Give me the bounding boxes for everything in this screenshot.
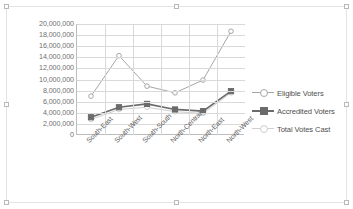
y-axis-tick-label: 16,000,000 — [12, 42, 74, 50]
legend-key-icon — [252, 106, 274, 116]
y-axis-tick-label: 0 — [12, 131, 74, 139]
legend-key-icon — [252, 88, 274, 98]
chart-plot-wrapper: 20,000,00018,000,00016,000,00014,000,000… — [7, 7, 348, 204]
data-point-marker — [229, 29, 234, 34]
y-axis-tick-label: 14,000,000 — [12, 53, 74, 61]
data-point-marker — [116, 105, 121, 110]
data-point-marker — [88, 115, 93, 120]
y-axis-tick-label: 6,000,000 — [12, 98, 74, 106]
legend-key-icon — [252, 124, 274, 134]
y-axis-tick-label: 10,000,000 — [12, 76, 74, 84]
y-axis-tick-label: 12,000,000 — [12, 64, 74, 72]
legend-item[interactable]: Eligible Voters — [252, 85, 353, 101]
legend-label: Eligible Voters — [277, 89, 324, 98]
legend-label: Accredited Voters — [277, 107, 335, 116]
legend-label: Total Votes Cast — [277, 125, 330, 134]
y-axis-tick-label: 8,000,000 — [12, 87, 74, 95]
y-axis-tick-label: 2,000,000 — [12, 120, 74, 128]
chart-container[interactable]: 20,000,00018,000,00016,000,00014,000,000… — [6, 6, 347, 203]
data-point-marker — [172, 107, 177, 112]
y-axis-tick-label: 4,000,000 — [12, 109, 74, 117]
y-axis-tick-label: 20,000,000 — [12, 20, 74, 28]
chart-legend: Eligible VotersAccredited VotersTotal Vo… — [252, 85, 353, 139]
data-point-marker — [89, 94, 94, 99]
data-point-marker — [145, 84, 150, 89]
y-axis-tick-label: 18,000,000 — [12, 31, 74, 39]
legend-item[interactable]: Accredited Voters — [252, 103, 353, 119]
y-axis: 20,000,00018,000,00016,000,00014,000,000… — [10, 7, 74, 204]
x-axis: South-EastSouth-WestSouth-SouthNorth-Cen… — [76, 137, 256, 197]
legend-item[interactable]: Total Votes Cast — [252, 121, 353, 137]
